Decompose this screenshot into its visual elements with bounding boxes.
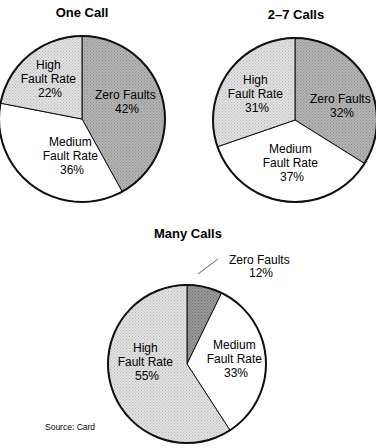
label-zero-faults: Zero Faults 12% [229,253,293,280]
pie-2-7-calls: 2–7 Calls Zero Faults 32% Medium Fault R… [213,7,376,202]
pie-title: Many Calls [154,226,222,241]
leader-line [198,259,218,274]
source-note: Source: Card [45,422,95,432]
pie-many-calls: Many Calls Zero Faults 12% Medium Fault … [108,226,293,443]
pie-one-call: One Call Zero Faults 42% Medium Fault Ra… [0,5,165,202]
pie-charts-figure: One Call Zero Faults 42% Medium Fault Ra… [0,0,376,448]
pie-title: One Call [56,5,109,20]
pie-title: 2–7 Calls [268,7,324,22]
